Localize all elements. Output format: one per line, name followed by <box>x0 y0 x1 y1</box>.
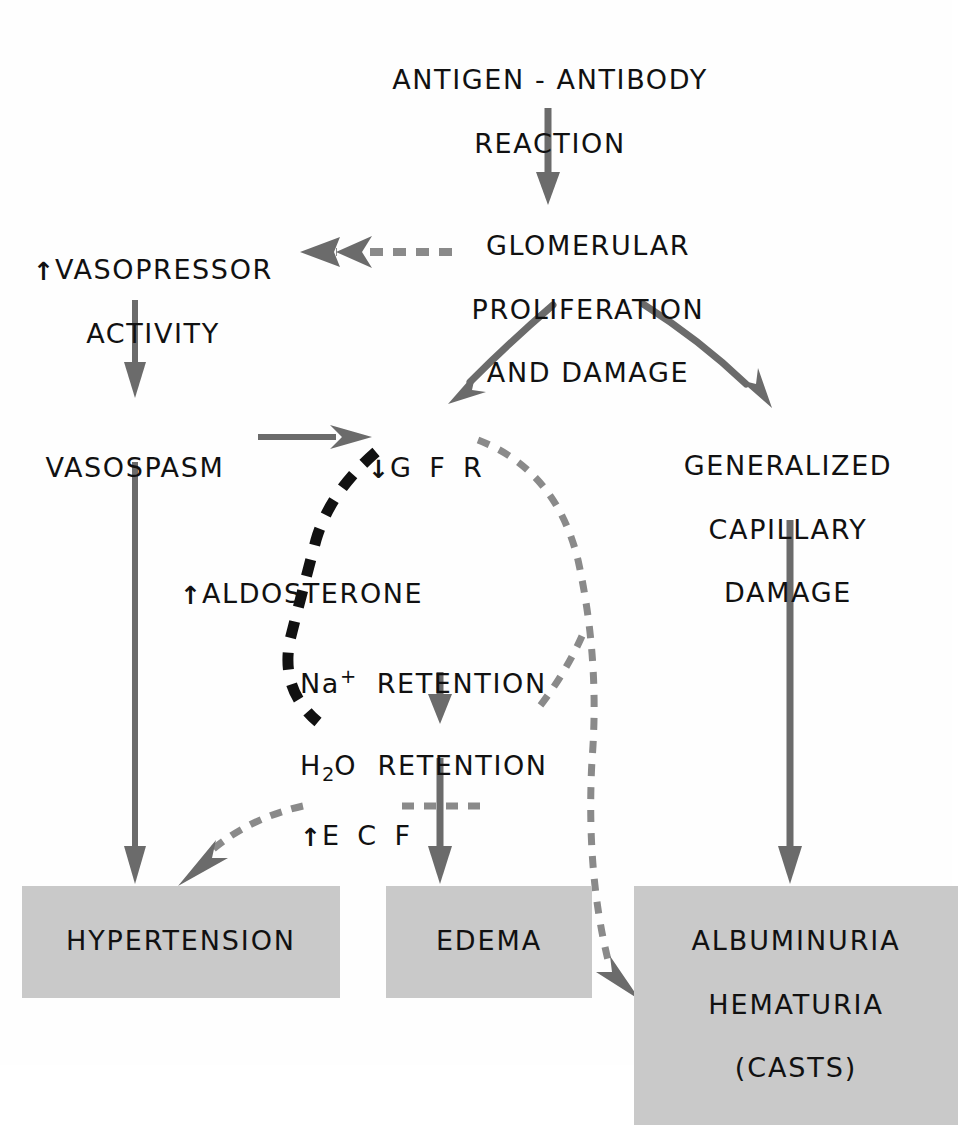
h2o-symbol-o: O <box>334 750 357 781</box>
aldosterone-label: ALDOSTERONE <box>202 578 423 609</box>
node-glomerular-proliferation-and-damage: GLOMERULAR PROLIFERATION AND DAMAGE <box>438 198 738 421</box>
edema-label: EDEMA <box>400 925 578 957</box>
albuminuria-label: ALBUMINURIA <box>648 925 944 957</box>
arrow-up-icon: ↑ <box>33 259 54 284</box>
node-vasospasm: VASOSPASM <box>10 420 260 516</box>
hypertension-label: HYPERTENSION <box>36 925 326 957</box>
casts-label: (CASTS) <box>648 1052 944 1084</box>
glomerular-line-1: GLOMERULAR <box>438 230 738 262</box>
capillary-line-2: CAPILLARY <box>638 514 938 546</box>
arrow-down-icon: ↓ <box>368 457 389 482</box>
h2o-symbol: H <box>300 750 322 781</box>
capillary-line-1: GENERALIZED <box>638 450 938 482</box>
arrow-up-icon: ↑ <box>300 825 321 850</box>
na-superscript: + <box>340 665 356 688</box>
edge-glomerular-to-vasopressor <box>300 236 452 268</box>
hematuria-label: HEMATURIA <box>648 989 944 1021</box>
glomerular-line-3: AND DAMAGE <box>438 357 738 389</box>
node-na-retention: Na+ RETENTION <box>300 634 600 732</box>
node-aldosterone: ↑ALDOSTERONE <box>180 546 500 642</box>
node-generalized-capillary-damage: GENERALIZED CAPILLARY DAMAGE <box>638 418 938 641</box>
edge-vasospasm-to-hypertension <box>124 462 146 884</box>
na-retention-line: Na+ RETENTION <box>300 666 600 700</box>
na-retention-label: RETENTION <box>377 668 547 699</box>
ecf-label: E C F <box>322 820 415 851</box>
node-gfr: ↓G F R <box>368 420 508 516</box>
node-edema: EDEMA <box>386 886 592 998</box>
na-symbol: Na <box>300 668 340 699</box>
node-ecf: ↑E C F <box>300 788 440 884</box>
node-hypertension: HYPERTENSION <box>22 886 340 998</box>
h2o-subscript: 2 <box>322 763 334 786</box>
vasopressor-line-1: ↑VASOPRESSOR <box>8 254 298 286</box>
vasospasm-label: VASOSPASM <box>10 452 260 484</box>
antigen-line-1: ANTIGEN - ANTIBODY <box>340 64 760 96</box>
arrow-up-icon: ↑ <box>180 583 201 608</box>
vasopressor-label-1: VASOPRESSOR <box>55 254 273 285</box>
gfr-label: G F R <box>390 452 487 483</box>
glomerular-line-2: PROLIFERATION <box>438 294 738 326</box>
node-vasopressor-activity: ↑VASOPRESSOR ACTIVITY <box>8 222 298 381</box>
node-albuminuria-hematuria-casts: ALBUMINURIA HEMATURIA (CASTS) <box>634 886 958 1125</box>
edge-vasospasm-to-gfr <box>258 425 372 449</box>
antigen-line-2: REACTION <box>340 128 760 160</box>
node-antigen-antibody-reaction: ANTIGEN - ANTIBODY REACTION <box>340 32 760 191</box>
h2o-retention-label: RETENTION <box>378 750 548 781</box>
ecf-line: ↑E C F <box>300 820 440 852</box>
edge-ecf-to-hypertension <box>178 806 303 886</box>
h2o-retention-line: H2O RETENTION <box>300 750 600 787</box>
aldosterone-line: ↑ALDOSTERONE <box>180 578 500 610</box>
capillary-line-3: DAMAGE <box>638 577 938 609</box>
gfr-line: ↓G F R <box>368 452 508 484</box>
vasopressor-line-2: ACTIVITY <box>8 318 298 350</box>
